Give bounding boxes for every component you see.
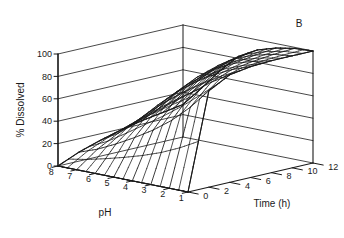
panel-label: B [296, 18, 303, 29]
text-layer: pH Time (h) % Dissolved B [0, 0, 344, 238]
figure-panel-b: 02040608010087654321024681012 pH Time (h… [0, 0, 344, 238]
z-axis-title: % Dissolved [15, 82, 26, 137]
y-axis-title: Time (h) [254, 198, 291, 209]
x-axis-title: pH [99, 207, 112, 218]
